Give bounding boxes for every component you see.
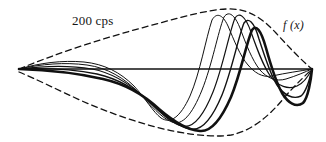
frequency-label: 200 cps — [72, 14, 113, 27]
function-label: f (x) — [283, 19, 304, 31]
wave-curve-group — [19, 14, 312, 131]
wave-diagram-canvas — [0, 0, 326, 142]
wave-phase-3-curve — [19, 15, 312, 126]
lower-envelope-curve — [19, 69, 312, 136]
wave-phase-1-curve — [19, 15, 312, 120]
upper-envelope-curve — [19, 9, 312, 69]
traveling-wave-figure: 200 cps f (x) — [0, 0, 326, 142]
